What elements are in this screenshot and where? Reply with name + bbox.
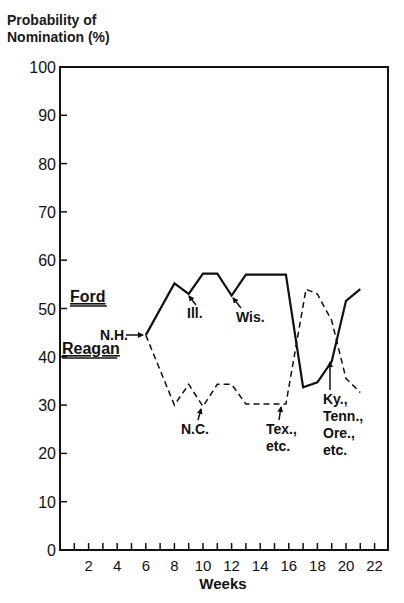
x-tick-label: 8 (170, 557, 178, 574)
series-reagan-line (146, 289, 360, 406)
y-tick-label: 90 (38, 107, 56, 124)
y-tick-label: 10 (38, 494, 56, 511)
annotations: N.H.Ill.Wis.N.C.Tex.,etc.Ky.,Tenn.,Ore.,… (100, 296, 363, 458)
plot-border (60, 67, 388, 550)
annotation-label: Tex., (266, 421, 297, 437)
annotation-label: Ky., (323, 391, 348, 407)
x-tick-label: 12 (223, 557, 240, 574)
annotation-label: Ore., (323, 425, 355, 441)
y-tick-label: 70 (38, 204, 56, 221)
annotation-label: Wis. (236, 309, 265, 325)
x-tick-label: 20 (338, 557, 355, 574)
annotation-arrow-icon (189, 296, 196, 305)
series-lines (146, 274, 360, 407)
x-tick-label: 22 (366, 557, 383, 574)
y-tick-label: 20 (38, 445, 56, 462)
y-tick-label: 30 (38, 397, 56, 414)
annotation-arrow-icon (279, 407, 281, 420)
x-tick-label: 4 (113, 557, 121, 574)
y-tick-label: 100 (29, 59, 56, 76)
y-axis: 0102030405060708090100 (29, 59, 67, 559)
plot-frame (60, 67, 388, 550)
legend-ford: Ford (70, 288, 106, 305)
annotation-arrow-icon (198, 409, 201, 420)
annotation-label: N.H. (100, 327, 128, 343)
series-ford-line (146, 274, 360, 388)
y-tick-label: 50 (38, 301, 56, 318)
x-tick-label: 6 (142, 557, 150, 574)
legend: FordReagan (62, 288, 120, 358)
y-tick-label: 0 (47, 542, 56, 559)
x-tick-label: 2 (84, 557, 92, 574)
y-tick-label: 40 (38, 349, 56, 366)
annotation-label: N.C. (181, 421, 209, 437)
x-tick-label: 10 (195, 557, 212, 574)
x-tick-label: 16 (280, 557, 297, 574)
annotation-label: etc. (266, 438, 290, 454)
annotation-label: etc. (323, 442, 347, 458)
annotation-arrow-icon (233, 298, 241, 308)
x-axis: 246810121416182022 (74, 543, 383, 574)
annotation-label: Ill. (187, 305, 203, 321)
x-axis-label: Weeks (199, 575, 246, 592)
x-tick-label: 18 (309, 557, 326, 574)
annotation-label: Tenn., (323, 408, 363, 424)
line-chart: 0102030405060708090100 24681012141618202… (0, 0, 404, 603)
y-tick-label: 60 (38, 252, 56, 269)
y-tick-label: 80 (38, 156, 56, 173)
x-tick-label: 14 (252, 557, 269, 574)
